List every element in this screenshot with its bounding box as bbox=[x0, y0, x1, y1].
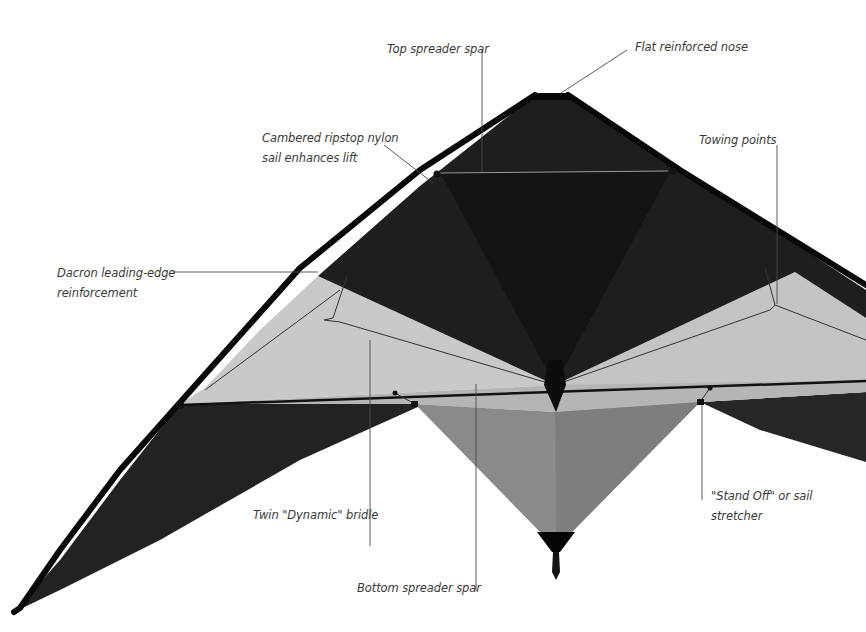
label-text-line2: reinforcement bbox=[57, 283, 175, 303]
label-top-spreader-spar: Top spreader spar bbox=[387, 39, 489, 59]
label-text: Twin "Dynamic" bridle bbox=[253, 508, 378, 522]
label-stand-off: "Stand Off" or sail stretcher bbox=[711, 486, 812, 526]
left-standoff-fitting bbox=[411, 401, 418, 407]
label-towing-points: Towing points bbox=[699, 130, 777, 150]
label-text-line2: sail enhances lift bbox=[262, 148, 399, 168]
label-text: Flat reinforced nose bbox=[635, 40, 748, 54]
left-spreader-joint bbox=[176, 401, 184, 409]
right-lower-wing-panel bbox=[700, 392, 866, 462]
keel-panel-shade bbox=[555, 402, 700, 532]
label-text-line1: "Stand Off" or sail bbox=[711, 486, 812, 506]
label-dacron-reinforcement: Dacron leading-edge reinforcement bbox=[57, 263, 175, 303]
right-spreader-clip bbox=[708, 386, 713, 391]
top-left-joint bbox=[434, 171, 441, 178]
label-text: Top spreader spar bbox=[387, 42, 489, 56]
kite-diagram: Top spreader spar Flat reinforced nose C… bbox=[0, 0, 866, 632]
kite-illustration bbox=[0, 0, 866, 632]
top-right-joint bbox=[670, 168, 677, 175]
right-standoff-fitting bbox=[697, 399, 704, 405]
label-twin-bridle: Twin "Dynamic" bridle bbox=[253, 505, 378, 525]
label-bottom-spreader-spar: Bottom spreader spar bbox=[357, 578, 481, 598]
label-text-line2: stretcher bbox=[711, 506, 812, 526]
label-text-line1: Cambered ripstop nylon bbox=[262, 128, 399, 148]
tail-cap bbox=[537, 532, 575, 552]
label-text: Towing points bbox=[699, 133, 777, 147]
label-text: Bottom spreader spar bbox=[357, 581, 481, 595]
left-spreader-clip bbox=[393, 391, 398, 396]
label-text-line1: Dacron leading-edge bbox=[57, 263, 175, 283]
tail-tip bbox=[552, 552, 560, 580]
label-cambered-sail: Cambered ripstop nylon sail enhances lif… bbox=[262, 128, 399, 168]
label-flat-reinforced-nose: Flat reinforced nose bbox=[635, 37, 748, 57]
